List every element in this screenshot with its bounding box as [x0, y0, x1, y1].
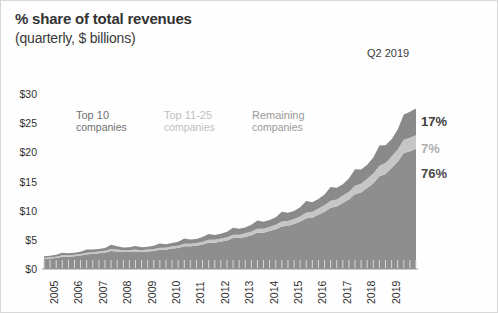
x-axis-tick-label: 2017: [341, 281, 353, 304]
legend-item: Remainingcompanies: [252, 109, 305, 133]
legend-label-line1: Top 10: [76, 109, 127, 121]
x-axis-tick-label: 2007: [97, 281, 109, 304]
x-axis-tick-label: 2009: [146, 281, 158, 304]
legend-label-line1: Remaining: [252, 109, 305, 121]
end-share-label: 76%: [421, 166, 447, 181]
x-axis-tick-label: 2010: [170, 281, 182, 304]
x-axis-tick-label: 2008: [121, 281, 133, 304]
x-axis-tick-label: 2006: [72, 281, 84, 304]
x-axis-tick-label: 2018: [365, 281, 377, 304]
legend-label-line1: Top 11-25: [164, 109, 215, 121]
y-axis-tick-label: $30: [7, 88, 37, 100]
y-axis-tick-label: $10: [7, 205, 37, 217]
end-share-label: 17%: [421, 114, 447, 129]
x-axis-tick-label: 2014: [268, 281, 280, 304]
x-axis-tick-label: 2015: [292, 281, 304, 304]
legend-label-line2: companies: [164, 121, 215, 133]
y-axis-tick-label: $25: [7, 117, 37, 129]
x-axis-tick-label: 2005: [48, 281, 60, 304]
x-axis-tick-label: 2013: [243, 281, 255, 304]
legend-item: Top 10companies: [76, 109, 127, 133]
x-axis-tick-label: 2016: [316, 281, 328, 304]
y-axis-tick-label: $0: [7, 263, 37, 275]
y-axis-tick-label: $20: [7, 146, 37, 158]
legend-label-line2: companies: [76, 121, 127, 133]
stacked-area-chart: [1, 1, 498, 313]
legend-label-line2: companies: [252, 121, 305, 133]
y-axis-tick-label: $5: [7, 234, 37, 246]
legend-item: Top 11-25companies: [164, 109, 215, 133]
x-axis-tick-label: 2011: [194, 281, 206, 304]
x-axis-tick-label: 2012: [219, 281, 231, 304]
chart-card: % share of total revenues (quarterly, $ …: [0, 0, 498, 313]
x-axis-tick-label: 2019: [390, 281, 402, 304]
y-axis-tick-label: $15: [7, 176, 37, 188]
end-share-label: 7%: [421, 141, 440, 156]
